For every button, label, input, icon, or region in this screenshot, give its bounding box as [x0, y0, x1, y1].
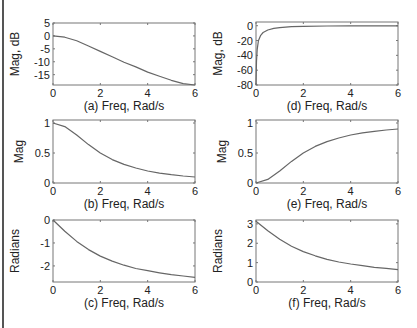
y-tick-label: 1 [247, 117, 253, 129]
x-tick-label: 4 [145, 284, 151, 296]
y-tick-label: -60 [237, 64, 253, 76]
x-tick-label: 6 [192, 284, 198, 296]
x-tick-label: 2 [300, 87, 306, 99]
x-tick-label: 0 [253, 284, 259, 296]
y-axis-label: Radians [8, 229, 22, 273]
x-tick-label: 4 [348, 185, 354, 197]
y-axis-label: Mag [12, 140, 26, 163]
y-tick-label: 0 [44, 177, 50, 189]
y-tick-label: -10 [34, 56, 50, 68]
y-tick-label: 3 [247, 218, 253, 230]
x-tick-label: 6 [395, 284, 401, 296]
x-tick-label: 4 [348, 87, 354, 99]
axes-box [53, 23, 195, 85]
x-tick-label: 4 [145, 185, 151, 197]
x-tick-label: 6 [192, 87, 198, 99]
subplot-d: 02460-20-40-60-80(d) Freq, Rad/sMag, dB [211, 20, 401, 113]
y-tick-label: 0 [247, 177, 253, 189]
x-tick-label: 2 [97, 185, 103, 197]
x-tick-label: 2 [97, 87, 103, 99]
y-tick-label: -40 [237, 49, 253, 61]
y-tick-label: -80 [237, 79, 253, 91]
x-tick-label: 0 [50, 284, 56, 296]
left-border-line [2, 0, 4, 328]
x-tick-label: 6 [395, 185, 401, 197]
y-tick-label: 0.5 [35, 147, 50, 159]
x-tick-label: 2 [97, 284, 103, 296]
y-tick-label: -15 [34, 69, 50, 81]
data-curve [256, 129, 398, 183]
axes-box [256, 22, 398, 85]
x-axis-label: (a) Freq, Rad/s [84, 99, 165, 113]
y-tick-label: 5 [44, 17, 50, 29]
y-tick-label: -20 [237, 35, 253, 47]
y-axis-label: Radians [211, 229, 225, 273]
data-curve [53, 220, 195, 277]
axes-box [53, 120, 195, 183]
x-tick-label: 0 [253, 185, 259, 197]
x-axis-label: (d) Freq, Rad/s [287, 99, 368, 113]
y-tick-label: 2 [247, 237, 253, 249]
y-tick-label: 0 [247, 20, 253, 32]
subplot-f: 02463210(f) Freq, Rad/sRadians [211, 218, 401, 310]
y-tick-label: 0 [44, 214, 50, 226]
subplot-e: 024610.50(e) Freq, Rad/sMag [215, 117, 401, 211]
x-axis-label: (e) Freq, Rad/s [287, 197, 368, 211]
x-tick-label: 2 [300, 185, 306, 197]
y-axis-label: Mag, dB [211, 31, 225, 76]
x-tick-label: 0 [50, 87, 56, 99]
figure-frame: 024650-5-10-15(a) Freq, Rad/sMag, dB0246… [0, 0, 417, 328]
x-tick-label: 4 [145, 87, 151, 99]
subplot-a: 024650-5-10-15(a) Freq, Rad/sMag, dB [8, 17, 198, 113]
axes-box [256, 120, 398, 183]
bode-plot-figure: 024650-5-10-15(a) Freq, Rad/sMag, dB0246… [0, 0, 417, 328]
y-axis-label: Mag, dB [8, 32, 22, 77]
data-curve [53, 36, 195, 85]
axes-box [256, 220, 398, 282]
x-tick-label: 0 [253, 87, 259, 99]
x-tick-label: 4 [348, 284, 354, 296]
data-curve [53, 123, 195, 177]
y-tick-label: 1 [44, 117, 50, 129]
x-tick-label: 0 [50, 185, 56, 197]
y-tick-label: -5 [40, 43, 50, 55]
x-tick-label: 6 [395, 87, 401, 99]
x-tick-label: 2 [300, 284, 306, 296]
x-tick-label: 6 [192, 185, 198, 197]
y-axis-label: Mag [215, 140, 229, 163]
subplot-c: 02460-1-2(c) Freq, Rad/sRadians [8, 214, 198, 310]
y-tick-label: 0.5 [238, 147, 253, 159]
y-tick-label: 1 [247, 257, 253, 269]
data-curve [256, 26, 398, 85]
x-axis-label: (c) Freq, Rad/s [84, 296, 164, 310]
y-tick-label: -2 [40, 260, 50, 272]
subplot-b: 024610.50(b) Freq, Rad/sMag [12, 117, 198, 211]
data-curve [256, 221, 398, 269]
x-axis-label: (f) Freq, Rad/s [288, 296, 365, 310]
x-axis-label: (b) Freq, Rad/s [84, 197, 165, 211]
y-tick-label: 0 [247, 276, 253, 288]
y-tick-label: 0 [44, 30, 50, 42]
y-tick-label: -1 [40, 237, 50, 249]
axes-box [53, 220, 195, 282]
